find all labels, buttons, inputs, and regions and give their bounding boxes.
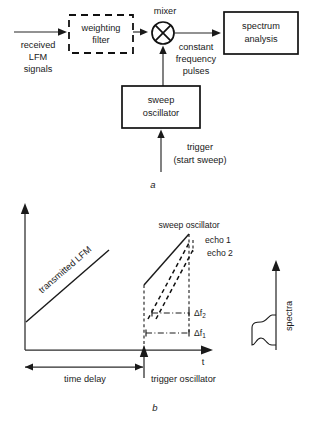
figure-container: received LFM signals weighting filter mi… [0, 0, 310, 426]
spectra-curve [252, 315, 276, 345]
input-label-line1: received [21, 40, 56, 50]
delta-f1-measure [146, 330, 189, 337]
echo2-label: echo 2 [207, 248, 233, 258]
time-delay-label: time delay [64, 374, 106, 384]
mixer-to-spectrum-arrow [174, 29, 221, 37]
spectrum-analysis-label-line2: analysis [244, 34, 278, 44]
spectra-label: spectra [284, 300, 294, 331]
input-signal-arrow [14, 28, 67, 36]
spectrum-analysis-label-line1: spectrum [242, 21, 280, 31]
spectra-axis [272, 260, 280, 350]
delta-f2-subscript: 2 [202, 312, 206, 319]
time-axis-label: t [202, 357, 205, 367]
weighting-filter-label-line2: filter [92, 35, 109, 45]
output-label-line3: pulses [183, 66, 210, 76]
delta-f2-label: Δf2 [194, 308, 206, 319]
output-label-line2: frequency [176, 54, 217, 64]
weighting-filter-box [69, 15, 133, 53]
output-label-line1: constant [179, 42, 214, 52]
spectrum-analysis-box [224, 12, 298, 54]
trigger-label-line1: trigger [187, 142, 213, 152]
mixer-label: mixer [154, 6, 176, 16]
caption-b: b [152, 402, 157, 413]
echo2-line [156, 248, 194, 319]
echo1-line [148, 243, 189, 319]
panel-a-block-diagram: received LFM signals weighting filter mi… [14, 6, 298, 190]
filter-to-mixer-arrow [133, 29, 148, 36]
sweep-oscillator-ramp-label: sweep oscillator [158, 220, 219, 230]
trigger-oscillator-label: trigger oscillator [151, 374, 216, 384]
mixer-icon [152, 22, 174, 44]
input-label-line3: signals [24, 64, 53, 74]
trigger-arrow [157, 130, 164, 173]
sweep-oscillator-label-line1: sweep [148, 95, 175, 105]
radar-stretch-processing-figure: received LFM signals weighting filter mi… [0, 0, 310, 426]
time-axis [25, 346, 213, 355]
delta-f1-label: Δf1 [194, 328, 206, 339]
weighting-filter-label-line1: weighting [81, 23, 121, 33]
panel-b-time-frequency-graph: t transmitted LFM sweep oscillator echo … [21, 203, 294, 413]
sweep-oscillator-box [122, 86, 200, 128]
trigger-label-line2: (start sweep) [173, 155, 226, 165]
time-delay-measure [25, 364, 143, 371]
sweep-oscillator-label-line2: oscillator [143, 108, 179, 118]
frequency-axis [21, 203, 29, 350]
sweep-to-mixer-arrow [159, 46, 166, 87]
sweep-oscillator-line [144, 234, 189, 285]
input-label-line2: LFM [29, 52, 47, 62]
caption-a: a [150, 179, 155, 190]
delta-f1-subscript: 1 [202, 332, 206, 339]
echo1-label: echo 1 [205, 235, 231, 245]
